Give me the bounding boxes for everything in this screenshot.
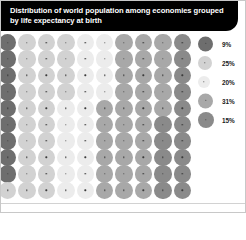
waffle-dot — [174, 83, 191, 100]
dot-center-marker — [123, 91, 124, 92]
legend-item[interactable]: 25% — [197, 53, 245, 72]
waffle-dot — [154, 149, 171, 166]
waffle-dot — [154, 67, 171, 84]
dot-center-marker — [85, 108, 86, 109]
dot-center-marker — [123, 58, 124, 59]
dot-center-marker — [26, 42, 27, 43]
dot-center-marker — [104, 91, 105, 92]
dot-center-marker — [143, 190, 144, 191]
dot-center-marker — [123, 42, 124, 43]
waffle-dot — [38, 116, 55, 133]
waffle-dot — [77, 165, 94, 182]
waffle-dot — [154, 132, 171, 149]
legend-swatch-circle — [198, 36, 213, 51]
dot-center-marker — [85, 124, 86, 125]
dot-center-marker — [104, 75, 105, 76]
dot-center-marker — [123, 108, 124, 109]
legend-item-label: 25% — [222, 59, 235, 66]
dot-center-marker — [143, 124, 144, 125]
chart-legend: 9%25%20%31%15% — [197, 34, 245, 130]
dot-center-marker — [205, 119, 206, 120]
waffle-dot — [174, 116, 191, 133]
waffle-dot — [135, 34, 152, 51]
dot-center-marker — [46, 173, 47, 174]
waffle-dot — [0, 132, 16, 149]
dot-center-marker — [123, 190, 124, 191]
dot-center-marker — [123, 173, 124, 174]
dot-center-marker — [162, 58, 163, 59]
waffle-dot — [96, 50, 113, 67]
legend-item[interactable]: 9% — [197, 34, 245, 53]
dot-center-marker — [182, 91, 183, 92]
dot-center-marker — [7, 157, 8, 158]
waffle-dot — [18, 132, 35, 149]
waffle-dot — [77, 132, 94, 149]
dot-center-marker — [104, 124, 105, 125]
waffle-dot — [0, 100, 16, 117]
dot-center-marker — [182, 157, 183, 158]
dot-center-marker — [65, 75, 66, 76]
waffle-dot — [57, 34, 74, 51]
dot-center-marker — [104, 157, 105, 158]
waffle-dot — [154, 182, 171, 199]
waffle-dot — [174, 165, 191, 182]
waffle-dot — [174, 132, 191, 149]
waffle-dot — [57, 67, 74, 84]
waffle-dot — [77, 67, 94, 84]
waffle-dot — [57, 100, 74, 117]
waffle-dot — [77, 100, 94, 117]
legend-swatch-circle — [198, 93, 213, 108]
waffle-dot — [96, 116, 113, 133]
legend-item-label: 9% — [222, 40, 231, 47]
dot-center-marker — [143, 157, 144, 158]
dot-center-marker — [204, 62, 205, 63]
waffle-dot — [115, 100, 132, 117]
dot-center-marker — [205, 43, 206, 44]
dot-center-marker — [7, 91, 8, 92]
waffle-dot — [115, 165, 132, 182]
waffle-dot — [57, 50, 74, 67]
legend-item[interactable]: 31% — [197, 91, 245, 110]
legend-item[interactable]: 20% — [197, 72, 245, 91]
waffle-dot — [96, 132, 113, 149]
waffle-dot — [174, 182, 191, 199]
dot-center-marker — [182, 190, 183, 191]
waffle-dot — [0, 149, 16, 166]
bottom-divider — [1, 203, 246, 204]
waffle-dot — [135, 50, 152, 67]
waffle-dot — [38, 182, 55, 199]
waffle-dot — [154, 116, 171, 133]
waffle-dot — [135, 67, 152, 84]
dot-center-marker — [143, 140, 144, 141]
dot-center-marker — [104, 42, 105, 43]
dot-center-marker — [85, 157, 86, 158]
waffle-dot — [174, 100, 191, 117]
waffle-dot — [18, 165, 35, 182]
waffle-dot — [0, 34, 16, 51]
dot-center-marker — [123, 157, 124, 158]
dot-center-marker — [205, 100, 206, 101]
legend-item-label: 15% — [222, 116, 235, 123]
dot-center-marker — [26, 108, 27, 109]
dot-center-marker — [7, 173, 8, 174]
waffle-dot — [115, 132, 132, 149]
dot-center-marker — [182, 140, 183, 141]
dot-center-marker — [46, 91, 47, 92]
dot-center-marker — [123, 75, 124, 76]
waffle-dot — [174, 50, 191, 67]
legend-item[interactable]: 15% — [197, 110, 245, 129]
dot-center-marker — [162, 108, 163, 109]
waffle-dot — [57, 83, 74, 100]
waffle-dot — [77, 83, 94, 100]
dot-center-marker — [104, 140, 105, 141]
dot-center-marker — [85, 91, 86, 92]
waffle-dot — [18, 67, 35, 84]
dot-center-marker — [65, 42, 66, 43]
dot-center-marker — [7, 140, 8, 141]
dot-center-marker — [182, 42, 183, 43]
dot-center-marker — [46, 140, 47, 141]
dot-center-marker — [182, 75, 183, 76]
dot-center-marker — [182, 58, 183, 59]
waffle-dot — [115, 149, 132, 166]
dot-center-marker — [162, 157, 163, 158]
